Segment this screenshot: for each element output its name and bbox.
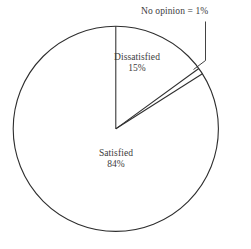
slice-label-dissatisfied: Dissatisfied 15% bbox=[92, 52, 182, 74]
slice-label-satisfied-name: Satisfied bbox=[70, 148, 162, 159]
slice-label-dissatisfied-name: Dissatisfied bbox=[92, 52, 182, 63]
slice-label-satisfied-value: 84% bbox=[70, 159, 162, 170]
slice-callout-no-opinion: No opinion = 1% bbox=[141, 6, 249, 17]
pie-chart: Dissatisfied 15% Satisfied 84% No opinio… bbox=[0, 0, 251, 249]
slice-label-dissatisfied-value: 15% bbox=[92, 63, 182, 74]
no-opinion-leader-line bbox=[194, 22, 206, 70]
pie-chart-graphic bbox=[0, 0, 251, 249]
slice-label-satisfied: Satisfied 84% bbox=[70, 148, 162, 170]
